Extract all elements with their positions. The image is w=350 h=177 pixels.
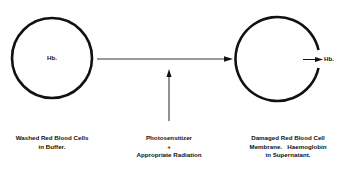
caption-line: Membrane. Haemoglobin xyxy=(238,143,338,152)
input-caption: Photosensitizer + Appropriate Radiation xyxy=(124,134,214,160)
radiation-arrow xyxy=(167,69,172,121)
caption-line: + xyxy=(124,143,214,152)
caption-line: Photosensitizer xyxy=(124,134,214,143)
intact-cell-caption: Washed Red Blood Cells in Buffer. xyxy=(6,134,98,151)
caption-line: Washed Red Blood Cells xyxy=(6,134,98,143)
released-hb-label: Hb. xyxy=(324,55,334,62)
damaged-cell-caption: Damaged Red Blood Cell Membrane. Haemogl… xyxy=(238,134,338,160)
intact-cell-hb-label: Hb. xyxy=(47,54,57,61)
caption-line: in Buffer. xyxy=(6,143,98,152)
haemoglobin-release-arrow xyxy=(303,57,323,62)
process-arrow xyxy=(97,56,233,61)
caption-line: Damaged Red Blood Cell xyxy=(238,134,338,143)
caption-line: in Supernatant. xyxy=(238,151,338,160)
caption-line: Appropriate Radiation xyxy=(124,151,214,160)
